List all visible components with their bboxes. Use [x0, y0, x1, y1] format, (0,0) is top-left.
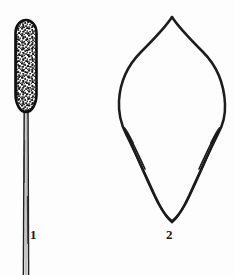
- figure-1-spike-body: [14, 19, 38, 113]
- illustration-plate: 1 2: [0, 0, 235, 275]
- figure-2-outline-left: [119, 17, 172, 222]
- figure-label-2: 2: [166, 228, 173, 241]
- figure-2-outline-right: [172, 17, 225, 222]
- figure-2-inner-wing-right: [172, 132, 218, 221]
- figure-label-1: 1: [30, 228, 37, 241]
- figure-2-inner-wing-left: [126, 132, 172, 221]
- figure-2-leaf-bract: [119, 17, 225, 222]
- figure-1-stalk: [23, 110, 28, 275]
